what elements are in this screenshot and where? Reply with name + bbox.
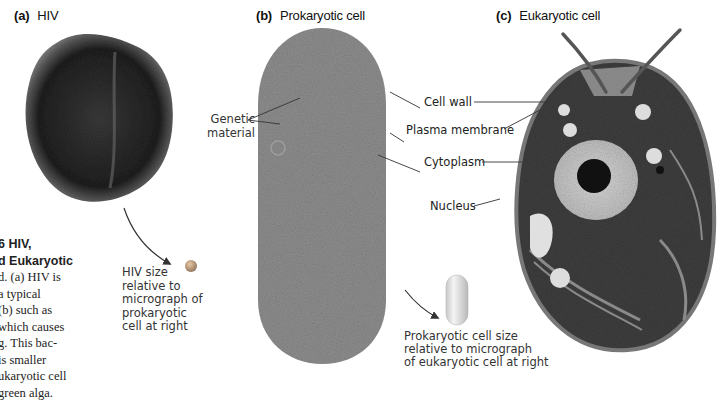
eukaryote-micrograph	[516, 61, 714, 351]
label-cell-wall: Cell wall	[424, 96, 472, 109]
panel-a-name: HIV	[37, 8, 58, 23]
caption-line: is smaller	[0, 352, 73, 369]
prokaryote-micrograph	[258, 28, 386, 364]
panel-a-title: (a)HIV	[14, 8, 58, 23]
caption-line: g. This bac-	[0, 335, 73, 352]
panel-c-letter: (c)	[496, 8, 511, 23]
prokaryote-arrow	[405, 290, 438, 318]
hiv-micrograph	[26, 34, 173, 202]
panel-b-letter: (b)	[256, 8, 272, 23]
caption-line: which causes	[0, 319, 73, 336]
panel-b-title: (b)Prokaryotic cell	[256, 8, 365, 23]
prokaryote-size-capsule	[446, 275, 468, 325]
label-plasma-membrane: Plasma membrane	[406, 124, 514, 137]
caption-line: 6 HIV,	[0, 236, 73, 253]
caption-line: d Eukaryotic	[0, 253, 73, 270]
caption-line: (b) such as	[0, 302, 73, 319]
hiv-arrow	[124, 208, 170, 264]
caption-line: ukaryotic cell	[0, 368, 73, 385]
caption-line: d. (a) HIV is	[0, 269, 73, 286]
panel-a-letter: (a)	[14, 8, 29, 23]
panel-c-title: (c)Eukaryotic cell	[496, 8, 600, 23]
hiv-size-note: HIV size relative to micrograph of proka…	[122, 266, 203, 334]
caption-line: a typical	[0, 286, 73, 303]
panel-c-name: Eukaryotic cell	[519, 8, 600, 23]
panel-b-name: Prokaryotic cell	[280, 8, 365, 23]
figure-caption: 6 HIV, d Eukaryotic d. (a) HIV is a typi…	[0, 236, 73, 401]
label-cytoplasm: Cytoplasm	[424, 156, 485, 169]
label-genetic-material: Genetic material	[207, 113, 255, 140]
prokaryote-size-note: Prokaryotic cell size relative to microg…	[404, 330, 549, 369]
caption-line: green alga.	[0, 385, 73, 401]
label-nucleus: Nucleus	[430, 200, 476, 213]
